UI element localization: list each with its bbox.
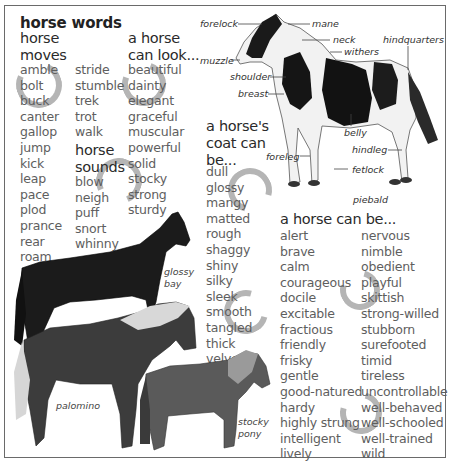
caption-stocky-pony: stocky pony: [238, 416, 269, 440]
caption-stocky-pony-line1: stocky: [238, 416, 269, 428]
caption-stocky-pony-line2: pony: [238, 428, 269, 440]
stocky-pony-illustration: [0, 0, 464, 472]
